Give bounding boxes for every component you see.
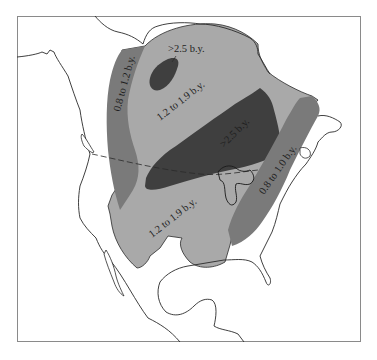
baja-peninsula [104,250,124,296]
east-bay [300,147,310,158]
geologic-age-map: 0.8 to 1.2 b.y. 1.2 to 1.9 b.y. 1.2 to 1… [0,0,377,360]
west-island [81,134,94,153]
label-north-core: >2.5 b.y. [168,43,205,54]
